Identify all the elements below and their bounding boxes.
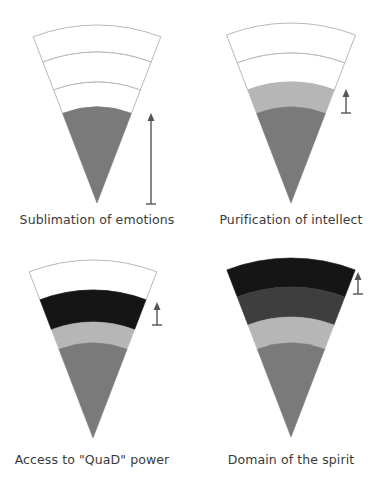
caption-access-to-quad-power: Access to "QuaD" power bbox=[0, 452, 189, 467]
panel-purification-of-intellect bbox=[226, 23, 355, 203]
caption-purification-of-intellect: Purification of intellect bbox=[194, 212, 388, 227]
panel-domain-of-the-spirit bbox=[227, 258, 363, 437]
caption-sublimation-of-emotions: Sublimation of emotions bbox=[0, 212, 194, 227]
up-arrow-icon bbox=[341, 89, 351, 113]
fan-band-4 bbox=[257, 343, 324, 437]
panel-sublimation-of-emotions bbox=[33, 25, 161, 204]
fan-band-4 bbox=[63, 107, 132, 203]
panel-access-to-quad-power bbox=[29, 260, 162, 438]
up-arrow-icon bbox=[353, 272, 363, 294]
up-arrow-icon bbox=[146, 113, 156, 204]
fan-diagram-canvas bbox=[0, 0, 389, 489]
caption-domain-of-the-spirit: Domain of the spirit bbox=[194, 452, 388, 467]
fan-band-4 bbox=[257, 107, 326, 203]
fan-band-4 bbox=[59, 343, 127, 438]
up-arrow-icon bbox=[152, 302, 162, 325]
